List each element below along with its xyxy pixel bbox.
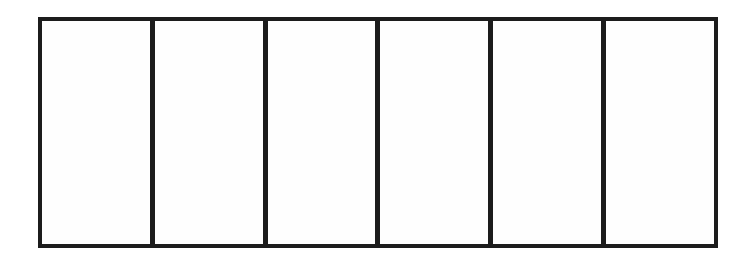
partitioned-rectangle — [38, 17, 718, 248]
diagram-canvas — [0, 0, 750, 262]
section-2 — [155, 21, 268, 244]
section-4 — [380, 21, 493, 244]
section-1 — [42, 21, 155, 244]
section-6 — [606, 21, 714, 244]
section-5 — [493, 21, 606, 244]
section-3 — [268, 21, 381, 244]
